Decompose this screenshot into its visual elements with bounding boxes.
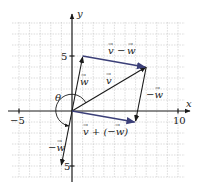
svg-text:→: → bbox=[106, 70, 111, 77]
svg-text:v + (−w): v + (−w) bbox=[83, 126, 128, 137]
svg-text:→: → bbox=[155, 84, 160, 91]
label-w: w → bbox=[80, 71, 89, 87]
theta-label: θ bbox=[55, 92, 61, 103]
label-neg-w-right: −w → bbox=[146, 84, 163, 100]
label-v-plus-neg-w: v + (−w) → → bbox=[83, 121, 128, 137]
tick-x-neg5: −5 bbox=[10, 115, 25, 126]
label-v: v → bbox=[106, 70, 112, 86]
svg-text:→: → bbox=[115, 121, 120, 128]
tick-y-5: 5 bbox=[61, 51, 67, 62]
x-axis-label: x bbox=[186, 98, 192, 109]
tick-y-neg5: 5 bbox=[64, 161, 70, 172]
svg-text:→: → bbox=[108, 40, 113, 47]
vector-neg-w-left bbox=[61, 111, 72, 165]
label-v-minus-w: v → − w → bbox=[108, 40, 136, 56]
vector-neg-w-right bbox=[136, 67, 147, 121]
y-axis-label: y bbox=[76, 8, 83, 19]
svg-text:→: → bbox=[81, 71, 86, 78]
svg-text:→: → bbox=[57, 137, 62, 144]
svg-text:→: → bbox=[128, 40, 133, 47]
vector-diagram: x y −5 10 5 5 θ w → v → v → − w → −w → −… bbox=[0, 0, 198, 185]
svg-text:−: − bbox=[117, 45, 125, 56]
tick-x-10: 10 bbox=[173, 115, 186, 126]
svg-text:→: → bbox=[83, 121, 88, 128]
